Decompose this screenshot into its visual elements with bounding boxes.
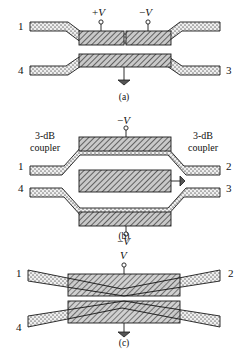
panel-a-voltage-positive-symbol: V [98,6,105,18]
panel-a-terminal-positive [99,20,103,31]
panel-a-voltage-negative-label: −V [139,6,152,18]
panel-b-right-coupler-label: 3-dB coupler [172,130,234,153]
panel-b: 1 4 2 3 3-dB coupler 3-dB coupler −V −V … [0,118,248,246]
panel-c-caption: (c) [0,338,248,348]
panel-b-left-coupler-line2: coupler [30,142,60,153]
panel-a-voltage-positive-label: +V [92,6,105,18]
panel-b-electrode-center [79,170,171,192]
panel-c-ground-icon [118,323,130,337]
panel-b-port-2-label: 2 [226,161,232,172]
panel-b-port-4-label: 4 [18,183,24,194]
panel-a: 1 4 3 +V −V (a) [0,0,248,118]
panel-b-caption: (b) [0,231,248,241]
panel-b-right-coupler-line1: 3-dB [193,130,213,141]
panel-b-port-3-label: 3 [226,183,232,194]
panel-c-port-1-label: 1 [16,268,22,279]
panel-b-left-coupler-line1: 3-dB [35,130,55,141]
panel-c-port-2-label: 2 [228,268,234,279]
panel-b-voltage-top-symbol: V [123,114,130,126]
panel-a-electrode-positive [79,31,124,45]
panel-b-right-coupler-line2: coupler [188,142,218,153]
panel-c: 1 4 2 V (c) [0,246,248,355]
panel-a-upper-waveguide [30,22,220,43]
panel-a-caption: (a) [0,92,248,102]
panel-a-port-3-label: 3 [226,65,232,76]
panel-b-port-1-label: 1 [18,161,24,172]
panel-a-electrode-ground [79,54,171,67]
panel-b-left-coupler-label: 3-dB coupler [14,130,76,153]
panel-b-electrode-bottom [79,212,171,226]
panel-c-port-4-label: 4 [16,322,22,333]
panel-a-terminal-negative [146,20,150,31]
panel-a-electrode-negative [126,31,171,45]
panel-b-terminal-top [124,126,128,137]
panel-a-port-4-label: 4 [18,65,24,76]
panel-b-ground-icon [171,176,185,186]
panel-a-ground-icon [118,67,130,85]
panel-b-voltage-top-label: −V [117,114,130,126]
panel-b-electrode-top [79,137,171,151]
panel-a-port-1-label: 1 [18,21,24,32]
panel-c-voltage-symbol: V [120,249,127,261]
panel-c-voltage-label: V [120,249,127,261]
panel-a-voltage-negative-symbol: V [145,6,152,18]
waveguide-switch-figure: 1 4 3 +V −V (a) [0,0,248,355]
panel-c-terminal [122,263,126,274]
